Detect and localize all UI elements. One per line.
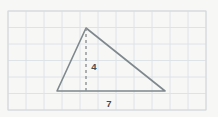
height-label: 4	[91, 61, 97, 72]
figure-container: 4 7	[0, 0, 218, 117]
triangle-diagram: 4 7	[0, 0, 218, 117]
base-label: 7	[106, 98, 111, 109]
